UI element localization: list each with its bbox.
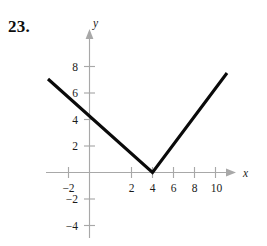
y-axis-arrow-icon [86, 29, 94, 39]
x-axis-label: x [242, 167, 249, 179]
y-tick-label-8: 8 [72, 61, 78, 73]
x-axis-arrow-icon [226, 169, 236, 177]
y-tick-label--2: −2 [66, 193, 78, 205]
graph-plot: −2 2 4 6 8 10 8 6 4 2 −2 −4 y x [0, 0, 267, 246]
x-tick-label-6: 6 [171, 182, 177, 194]
y-axis-label: y [92, 17, 99, 30]
x-tick-label-4: 4 [150, 182, 156, 194]
y-tick-label-2: 2 [72, 140, 78, 152]
y-tick-label-4: 4 [72, 114, 78, 126]
figure-container: 23. −2 2 4 6 8 10 8 6 4 [0, 0, 267, 246]
y-tick-label--4: −4 [66, 220, 78, 232]
y-tick-label-6: 6 [72, 87, 78, 99]
x-tick-label-8: 8 [192, 182, 198, 194]
x-tick-label-10: 10 [211, 182, 223, 194]
x-tick-label-2: 2 [129, 182, 135, 194]
